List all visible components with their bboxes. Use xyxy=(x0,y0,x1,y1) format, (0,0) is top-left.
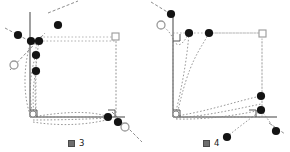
cjk-glyph-icon xyxy=(203,140,210,147)
figure-3-panel xyxy=(0,0,145,152)
data-dot xyxy=(104,113,112,121)
figure-3-number: 3 xyxy=(79,138,84,148)
open-circle-markers xyxy=(10,61,129,131)
data-dot xyxy=(223,133,231,141)
data-dot xyxy=(257,92,265,100)
figure-3-caption: 3 xyxy=(68,138,84,148)
guide-lines xyxy=(151,2,285,134)
data-dot xyxy=(185,29,193,37)
data-dot xyxy=(167,10,175,18)
figure-4-caption: 4 xyxy=(203,138,219,148)
open-circle-markers xyxy=(157,21,165,29)
figure-root: 3 4 xyxy=(0,0,290,152)
right-angle-markers xyxy=(30,110,115,117)
square-marker-leaders xyxy=(40,37,116,115)
data-dot xyxy=(205,29,213,37)
data-dot xyxy=(54,21,62,29)
data-dot xyxy=(114,118,122,126)
figure-4-number: 4 xyxy=(214,138,219,148)
dotted-rectangle xyxy=(36,41,116,117)
data-dot xyxy=(257,106,265,114)
data-dot xyxy=(35,37,43,45)
origin-open-circle xyxy=(173,111,179,117)
data-dot xyxy=(27,37,35,45)
data-dot xyxy=(32,67,40,75)
data-dot xyxy=(272,127,280,135)
square-marker xyxy=(259,30,266,37)
figure-4-panel xyxy=(145,0,290,152)
square-marker xyxy=(112,33,119,40)
right-angle-markers xyxy=(173,34,256,117)
data-dot xyxy=(14,31,22,39)
axes xyxy=(30,12,125,117)
dotted-curves xyxy=(161,25,276,137)
dotted-rectangle xyxy=(173,33,262,117)
data-dot xyxy=(32,51,40,59)
square-marker-leaders xyxy=(213,33,262,115)
cjk-glyph-icon xyxy=(68,140,75,147)
origin-open-circle xyxy=(30,111,36,117)
axes xyxy=(173,12,277,117)
